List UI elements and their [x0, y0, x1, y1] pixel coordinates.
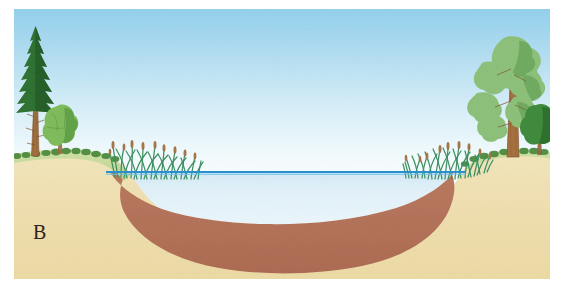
pond-cross-section-illustration: [14, 9, 550, 279]
figure-root: B: [0, 0, 568, 291]
panel-label: B: [33, 222, 47, 242]
scene-svg: [14, 9, 550, 279]
